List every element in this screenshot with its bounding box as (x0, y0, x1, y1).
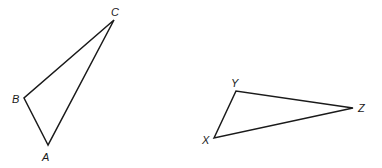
vertex-label-z: Z (357, 102, 366, 114)
triangle-abc (24, 20, 114, 145)
diagram-canvas: A B C X Y Z (0, 0, 382, 168)
triangle-xyz (214, 91, 353, 138)
vertex-label-b: B (12, 93, 19, 105)
vertex-label-x: X (201, 134, 210, 146)
vertex-label-y: Y (231, 77, 239, 89)
triangles-figure: A B C X Y Z (0, 0, 382, 168)
vertex-label-a: A (41, 151, 49, 163)
vertex-label-c: C (111, 6, 119, 18)
